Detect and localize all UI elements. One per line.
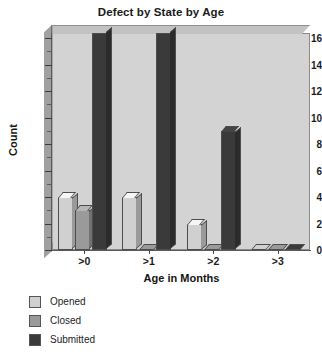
y-tick-minor bbox=[47, 184, 52, 185]
bar-side-face bbox=[106, 27, 112, 249]
y-tick-minor bbox=[47, 51, 52, 52]
x-axis-title: Age in Months bbox=[52, 272, 311, 284]
y-tick-major bbox=[45, 197, 52, 198]
legend-swatch-opened bbox=[29, 296, 41, 308]
legend-swatch-closed bbox=[29, 315, 41, 327]
y-tick-label: 2 bbox=[280, 218, 322, 229]
bar-opened-0 bbox=[58, 197, 73, 250]
y-tick-major bbox=[45, 171, 52, 172]
plot-area bbox=[52, 33, 310, 250]
y-tick-major bbox=[45, 250, 52, 251]
y-tick-minor bbox=[47, 157, 52, 158]
legend-item-submitted[interactable]: Submitted bbox=[29, 330, 95, 349]
y-tick-major bbox=[45, 224, 52, 225]
x-axis-line bbox=[52, 250, 311, 251]
y-tick-minor bbox=[47, 210, 52, 211]
y-tick-major bbox=[45, 144, 52, 145]
y-tick-label: 16 bbox=[280, 33, 322, 44]
y-tick-minor bbox=[47, 131, 52, 132]
y-tick-major bbox=[45, 118, 52, 119]
legend-label: Submitted bbox=[50, 334, 95, 345]
x-tick bbox=[278, 250, 279, 254]
y-tick-label: 4 bbox=[280, 192, 322, 203]
bar-side-face bbox=[136, 193, 142, 249]
bar-submitted-0 bbox=[92, 33, 107, 250]
y-tick-label: 0 bbox=[280, 245, 322, 256]
x-tick-label: >2 bbox=[207, 255, 219, 267]
y-tick-label: 10 bbox=[280, 112, 322, 123]
bar-side-face bbox=[170, 27, 176, 249]
legend-swatch-submitted bbox=[29, 334, 41, 346]
y-axis-title: Count bbox=[7, 105, 19, 175]
x-tick-label: >1 bbox=[143, 255, 155, 267]
y-tick-minor bbox=[47, 78, 52, 79]
y-tick-major bbox=[45, 91, 52, 92]
chart-title: Defect by State by Age bbox=[0, 6, 322, 18]
legend-item-opened[interactable]: Opened bbox=[29, 292, 95, 311]
y-tick-label: 12 bbox=[280, 86, 322, 97]
y-tick-label: 6 bbox=[280, 165, 322, 176]
x-tick bbox=[84, 250, 85, 254]
y-tick-major bbox=[45, 65, 52, 66]
legend-label: Opened bbox=[50, 296, 86, 307]
bar-submitted-1 bbox=[156, 33, 171, 250]
y-tick-minor bbox=[47, 237, 52, 238]
bar-opened-2 bbox=[187, 224, 202, 251]
y-tick-major bbox=[45, 38, 52, 39]
x-tick bbox=[149, 250, 150, 254]
bar-chart: Defect by State by Age Count 02468101214… bbox=[0, 0, 322, 359]
x-tick bbox=[213, 250, 214, 254]
bar-side-face bbox=[235, 127, 241, 249]
legend-item-closed[interactable]: Closed bbox=[29, 311, 95, 330]
y-tick-minor bbox=[47, 104, 52, 105]
x-tick-label: >0 bbox=[78, 255, 90, 267]
bar-opened-1 bbox=[122, 197, 137, 250]
legend-label: Closed bbox=[50, 315, 81, 326]
y-axis-line bbox=[51, 33, 52, 251]
bar-submitted-2 bbox=[221, 131, 236, 250]
chart-legend: OpenedClosedSubmitted bbox=[29, 292, 95, 349]
y-tick-label: 8 bbox=[280, 139, 322, 150]
x-tick-label: >3 bbox=[272, 255, 284, 267]
plot-top-bevel bbox=[44, 25, 310, 34]
y-tick-label: 14 bbox=[280, 59, 322, 70]
bar-closed-0 bbox=[75, 210, 90, 250]
